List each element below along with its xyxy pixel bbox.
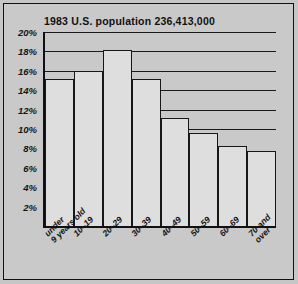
y-axis-tick-label: 6% <box>23 162 37 173</box>
x-axis-tick: 30–39 <box>130 230 159 282</box>
x-axis-tick: 70 and over <box>247 230 276 282</box>
bar <box>189 133 218 226</box>
bar-slot <box>103 32 132 226</box>
bar-slot <box>74 32 103 226</box>
y-axis-tick-label: 8% <box>23 143 37 154</box>
y-axis-tick-label: 12% <box>18 104 37 115</box>
y-axis: 20%18%16%14%12%10%8%6%4%2% <box>0 32 41 228</box>
x-axis-tick: 10–19 <box>72 230 101 282</box>
y-axis-tick-label: 14% <box>18 85 37 96</box>
x-axis-tick: under 9 years old <box>43 230 72 282</box>
plot-area <box>43 32 276 228</box>
bar-series <box>45 32 276 226</box>
chart-screenshot: 1983 U.S. population 236,413,000 20%18%1… <box>0 0 298 284</box>
bar-slot <box>132 32 161 226</box>
x-axis: under 9 years old10–1920–2930–3940–4950–… <box>43 230 276 282</box>
bar <box>132 79 161 226</box>
x-axis-tick: 50–59 <box>189 230 218 282</box>
x-axis-tick: 60–69 <box>218 230 247 282</box>
bar-slot <box>45 32 74 226</box>
y-axis-tick-label: 20% <box>18 27 37 38</box>
y-axis-tick-label: 2% <box>23 201 37 212</box>
bar-slot <box>161 32 190 226</box>
bar-slot <box>247 32 276 226</box>
y-axis-tick-label: 10% <box>18 124 37 135</box>
bar <box>103 50 132 226</box>
bar-slot <box>189 32 218 226</box>
y-axis-tick-label: 18% <box>18 46 37 57</box>
bar <box>161 118 190 226</box>
x-axis-tick: 40–49 <box>160 230 189 282</box>
x-axis-tick: 20–29 <box>101 230 130 282</box>
chart-title: 1983 U.S. population 236,413,000 <box>44 15 215 27</box>
y-axis-tick-label: 16% <box>18 65 37 76</box>
bar-slot <box>218 32 247 226</box>
y-axis-tick-label: 4% <box>23 182 37 193</box>
